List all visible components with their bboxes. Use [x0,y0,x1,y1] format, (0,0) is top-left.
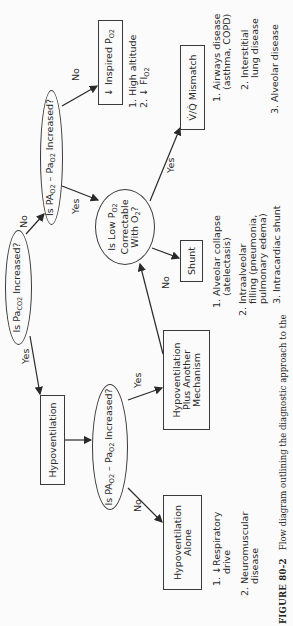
gradient-upper-text: Is PAO2 – PaO2 Increased? [45,99,58,216]
hypo-alone-cause-2: 2. Neuromusculardisease [240,512,268,596]
list-item: 1. High altitude [128,35,138,108]
inspired-po2-box: ↓ Inspired PO2 [98,20,123,105]
gradient-increased-decision-lower: Is PAO2 – PaO2 Increased? [92,384,128,510]
flow-diagram: Is PaCO2 Increased? Yes No Is PAO2 – PaO… [0,0,293,626]
figure-label: FIGURE 80-2 [278,558,288,624]
edge-label-correctable-no: No [160,276,171,289]
correctable-with-o2-decision: Is Low PO2 Correctable With O2? [95,189,155,265]
gradient-increased-decision-upper: Is PAO2 – PaO2 Increased? [40,90,63,225]
hypo-alone-cause-1: 1. ↓Respiratorydrive [212,512,240,586]
down-arrow-icon: ↓ [103,88,114,96]
shunt-cause-3: 3. Intracardiac shunt [272,205,290,304]
vq-mismatch-box: V̇/Q̇ Mismatch [180,45,205,130]
shunt-box: Shunt [180,240,203,282]
vq-cause-3: 3. Alveolar disease [270,24,288,114]
vq-cause-1: 1. Airways disease(asthma, COPD) [212,14,240,102]
inspired-po2-text: ↓ Inspired PO2 [104,29,117,96]
correctable-decision-text: Is Low PO2 Correctable With O2? [107,200,143,255]
vq-cause-2: 2. Interstitiallung disease [240,18,268,90]
edge-label-paco2-no: No [18,215,29,228]
list-item: 2. ↓ FIO2 [139,35,152,108]
hypo-alone-box: HypoventilationAlone [163,495,202,590]
edge-label-gradient-lower-no: No [132,499,143,512]
hypoventilation-box: Hypoventilation [40,395,65,485]
caption-text: Flow diagram outlining the diagnostic ap… [278,315,288,551]
edge-label-gradient-upper-no: No [70,68,81,81]
edge-label-correctable-yes: Yes [165,158,176,173]
figure-caption: FIGURE 80-2Flow diagram outlining the di… [278,315,288,624]
inspired-po2-causes-list: 1. High altitude 2. ↓ FIO2 [128,35,160,108]
gradient-lower-text: Is PAO2 – PaO2 Increased? [104,388,117,505]
edge-label-paco2-yes: Yes [20,349,31,364]
shunt-cause-1: 1. Alveolar collapse(atelectasis) [212,215,240,308]
vq-mismatch-text: V̇/Q̇ Mismatch [188,54,198,120]
down-arrow-icon: ↓ [138,88,149,96]
paco2-increased-decision: Is PaCO2 Increased? [5,230,32,345]
hypo-plus-text: HypoventilationPlus AnotherMechanism [172,342,202,417]
hypo-plus-mechanism-box: HypoventilationPlus AnotherMechanism [163,330,210,430]
shunt-text: Shunt [187,247,197,275]
edge-label-gradient-upper-yes: Yes [70,199,81,214]
paco2-decision-text: Is PaCO2 Increased? [12,243,25,333]
hypo-alone-text: HypoventilationAlone [173,505,193,580]
hypoventilation-text: Hypoventilation [48,402,58,477]
edge-label-gradient-lower-yes: Yes [132,373,143,388]
